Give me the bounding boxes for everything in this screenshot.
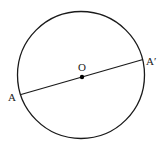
circle — [18, 12, 145, 139]
point-a-prime-label: A′ — [146, 55, 156, 67]
center-point — [80, 75, 84, 79]
center-label: O — [78, 61, 86, 73]
point-a-label: A — [8, 91, 16, 103]
diagram-canvas: O A A′ — [0, 0, 166, 148]
